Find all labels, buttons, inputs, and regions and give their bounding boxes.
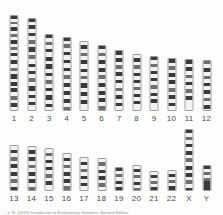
chromosome-label-9: 9	[147, 114, 161, 124]
chromosome-label-18: 18	[95, 194, 109, 204]
chromosome-band	[133, 188, 140, 190]
chromosome-1-ideogram	[10, 15, 19, 111]
karyotype-figure: 123456789101112 13141516171819202122XY .…	[0, 0, 223, 215]
chromosome-4-ideogram	[62, 37, 71, 111]
chromosome-label-10: 10	[165, 114, 179, 124]
chromosome-band	[186, 188, 193, 190]
chromosome-band	[186, 100, 193, 111]
chromosome-label-Y: Y	[200, 194, 214, 204]
chromosome-label-6: 6	[95, 114, 109, 124]
chromosome-label-17: 17	[77, 194, 91, 204]
chromosome-band	[116, 106, 123, 110]
chromosome-label-22: 22	[165, 194, 179, 204]
chromosome-label-14: 14	[25, 194, 39, 204]
chromosome-band	[11, 107, 18, 110]
chromosome-18-ideogram	[97, 158, 106, 191]
chromosome-12-ideogram	[202, 60, 211, 111]
chromosome-5-ideogram	[80, 41, 89, 111]
chromosome-label-7: 7	[112, 114, 126, 124]
chromosome-band	[28, 105, 35, 110]
chromosome-label-3: 3	[42, 114, 56, 124]
chromosome-11-ideogram	[185, 59, 194, 111]
chromosome-band	[28, 187, 35, 190]
chromosome-label-21: 21	[147, 194, 161, 204]
chromosome-Y-ideogram	[202, 165, 211, 191]
chromosome-band	[46, 107, 53, 110]
chromosome-band	[63, 186, 70, 190]
chromosome-2-ideogram	[27, 18, 36, 111]
chromosome-label-13: 13	[7, 194, 21, 204]
figure-caption: ... n, N. (2019) Introduction to Evoluti…	[3, 210, 223, 215]
chromosome-band	[98, 106, 105, 110]
chromosome-17-ideogram	[80, 157, 89, 191]
chromosome-band	[168, 186, 175, 190]
chromosome-band	[168, 106, 175, 110]
chromosome-8-ideogram	[132, 54, 141, 111]
chromosome-3-ideogram	[45, 34, 54, 111]
chromosome-16-ideogram	[62, 153, 71, 191]
chromosome-X-ideogram	[185, 129, 194, 191]
chromosome-7-ideogram	[115, 50, 124, 111]
chromosome-19-ideogram	[115, 167, 124, 191]
chromosome-label-8: 8	[130, 114, 144, 124]
chromosome-band	[133, 105, 140, 111]
chromosome-band	[46, 185, 53, 190]
chromosome-14-ideogram	[27, 146, 36, 191]
chromosome-label-19: 19	[112, 194, 126, 204]
chromosome-band	[203, 181, 210, 190]
chromosome-label-X: X	[182, 194, 196, 204]
chromosome-label-4: 4	[60, 114, 74, 124]
chromosome-20-ideogram	[132, 165, 141, 191]
chromosome-label-11: 11	[182, 114, 196, 124]
chromosome-10-ideogram	[167, 58, 176, 111]
chromosome-band	[63, 107, 70, 110]
chromosome-13-ideogram	[10, 145, 19, 191]
chromosome-9-ideogram	[150, 56, 159, 111]
chromosome-label-16: 16	[60, 194, 74, 204]
chromosome-label-20: 20	[130, 194, 144, 204]
chromosome-15-ideogram	[45, 148, 54, 191]
chromosome-band	[11, 187, 18, 190]
karyotype-row-1: 123456789101112	[0, 0, 223, 124]
chromosome-label-1: 1	[7, 114, 21, 124]
chromosome-band	[203, 109, 210, 110]
chromosome-22-ideogram	[167, 170, 176, 191]
chromosome-band	[151, 103, 158, 110]
chromosome-band	[116, 187, 123, 190]
chromosome-label-12: 12	[200, 114, 214, 124]
chromosome-21-ideogram	[150, 171, 159, 191]
chromosome-6-ideogram	[97, 45, 106, 111]
chromosome-band	[81, 186, 88, 190]
chromosome-label-5: 5	[77, 114, 91, 124]
karyotype-row-2: 13141516171819202122XY	[0, 128, 223, 204]
chromosome-label-2: 2	[25, 114, 39, 124]
chromosome-band	[98, 187, 105, 190]
chromosome-band	[151, 187, 158, 190]
chromosome-band	[81, 104, 88, 110]
chromosome-label-15: 15	[42, 194, 56, 204]
